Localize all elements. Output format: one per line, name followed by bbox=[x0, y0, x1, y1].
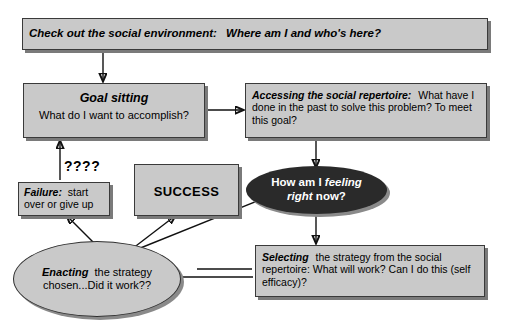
node-accessing-repertoire[interactable]: Accessing the social repertoire: What ha… bbox=[245, 83, 487, 138]
failure-lead: Failure: bbox=[24, 186, 62, 198]
check-environment-lead: Check out the social environment: bbox=[29, 27, 217, 39]
node-check-environment[interactable]: Check out the social environment: Where … bbox=[22, 18, 488, 50]
node-selecting-strategy[interactable]: Selecting the strategy from the social r… bbox=[255, 245, 485, 297]
label-question-marks: ???? bbox=[64, 158, 100, 174]
flowchart-canvas: Check out the social environment: Where … bbox=[0, 0, 512, 330]
node-enacting-strategy[interactable]: Enacting the strategy chosen...Did it wo… bbox=[13, 241, 181, 317]
enacting-lead: Enacting bbox=[42, 266, 88, 278]
node-failure[interactable]: Failure: start over or give up bbox=[18, 182, 110, 216]
check-environment-rest: Where am I and who's here? bbox=[226, 27, 381, 39]
question-marks-text: ???? bbox=[64, 158, 100, 174]
selecting-lead: Selecting bbox=[262, 251, 309, 263]
success-label: SUCCESS bbox=[154, 184, 220, 199]
feeling-pre: How am I bbox=[271, 176, 325, 188]
goal-sitting-lead: Goal sitting bbox=[30, 91, 198, 106]
node-how-am-i-feeling[interactable]: How am I feeling right now? bbox=[246, 166, 387, 214]
feeling-post: now? bbox=[313, 190, 346, 202]
node-goal-sitting[interactable]: Goal sitting What do I want to accomplis… bbox=[23, 83, 205, 138]
node-success[interactable]: SUCCESS bbox=[134, 164, 239, 216]
goal-sitting-rest: What do I want to accomplish? bbox=[30, 109, 198, 122]
accessing-repertoire-lead: Accessing the social repertoire: bbox=[252, 89, 411, 101]
